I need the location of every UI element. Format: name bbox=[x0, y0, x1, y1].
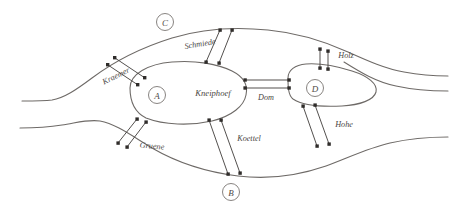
islands bbox=[130, 61, 376, 124]
bridge-kraemer-abutment-nw bbox=[113, 56, 116, 59]
bridge-hohe-rail-a bbox=[303, 106, 317, 146]
bridge-koettel-abutment-ne bbox=[219, 118, 222, 121]
bridge-kraemer-abutment-se bbox=[136, 83, 139, 86]
map-canvas: A B C D Kneiphoef Kraemer Schmiede Holz … bbox=[0, 0, 452, 211]
bridge-dom-abutment-ne bbox=[287, 78, 290, 81]
node-A-label: A bbox=[153, 91, 160, 101]
node-D-label: D bbox=[311, 84, 319, 94]
koenigsberg-bridges-figure: A B C D Kneiphoef Kraemer Schmiede Holz … bbox=[0, 0, 452, 211]
bridge-koettel-rail-a bbox=[209, 120, 228, 174]
bridge-hohe-abutment-ne bbox=[313, 103, 316, 106]
node-C: C bbox=[157, 14, 174, 31]
bridge-gruene-rail-a bbox=[118, 119, 137, 143]
label-hohe: Hohe bbox=[334, 120, 353, 129]
bridge-kraemer-abutment-ne bbox=[143, 76, 146, 79]
bridge-hohe-rail-b bbox=[315, 105, 329, 144]
bridge-hohe-abutment-nw bbox=[301, 104, 304, 107]
bridge-schmiede-rail-b bbox=[219, 30, 232, 63]
bridge-koettel bbox=[207, 118, 241, 175]
bridge-gruene-abutment-nw bbox=[144, 120, 147, 123]
bridge-gruene-abutment-se bbox=[125, 145, 128, 148]
bridge-kraemer-abutment-sw bbox=[106, 63, 109, 66]
bridge-koettel-rail-b bbox=[221, 120, 240, 173]
label-kneiphoef: Kneiphoef bbox=[194, 88, 232, 98]
node-B-label: B bbox=[228, 188, 234, 198]
bridge-holz-abutment-ne bbox=[326, 49, 329, 52]
bridge-schmiede-abutment-sw bbox=[204, 60, 207, 63]
bridge-schmiede-abutment-nw bbox=[218, 28, 221, 31]
bridge-gruene-abutment-sw bbox=[116, 141, 119, 144]
bridge-holz-abutment-nw bbox=[318, 47, 321, 50]
bridge-dom-abutment-nw bbox=[243, 78, 246, 81]
bridge-hohe-abutment-se bbox=[327, 142, 330, 145]
bridge-koettel-abutment-nw bbox=[207, 118, 210, 121]
bridge-hohe bbox=[301, 103, 330, 147]
island-lomse bbox=[288, 64, 376, 106]
bridge-dom bbox=[243, 78, 290, 89]
bridge-gruene-abutment-ne bbox=[135, 117, 138, 120]
bridge-dom-abutment-se bbox=[287, 86, 290, 89]
bridge-dom-abutment-sw bbox=[243, 86, 246, 89]
label-dom: Dom bbox=[257, 93, 274, 102]
bridge-holz-abutment-se bbox=[326, 67, 329, 70]
node-B: B bbox=[223, 184, 240, 201]
label-holz: Holz bbox=[337, 51, 354, 60]
bridge-koettel-abutment-se bbox=[238, 171, 241, 174]
label-koettel: Koettel bbox=[236, 134, 261, 143]
bridge-koettel-abutment-sw bbox=[226, 172, 229, 175]
bridge-hohe-abutment-sw bbox=[315, 144, 318, 147]
node-C-label: C bbox=[162, 18, 169, 28]
bridge-schmiede-abutment-ne bbox=[230, 28, 233, 31]
south-shore-line bbox=[20, 120, 448, 177]
bridge-holz-abutment-sw bbox=[318, 66, 321, 69]
label-gruene: Gruene bbox=[139, 140, 165, 151]
bridge-schmiede-abutment-se bbox=[217, 61, 220, 64]
